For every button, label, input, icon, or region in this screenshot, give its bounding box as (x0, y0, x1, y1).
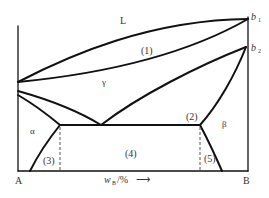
alpha-boundary-curve (18, 95, 60, 125)
label-component-a: A (15, 175, 23, 186)
label-region-5: (5) (204, 153, 216, 165)
gamma-lower-left-curve (18, 91, 101, 125)
label-alpha: α (30, 126, 35, 136)
label-region-2: (2) (186, 111, 198, 123)
x-axis-label-w: w (104, 174, 111, 185)
x-axis-label-unit: /% (117, 174, 128, 185)
label-component-b: B (243, 175, 250, 186)
label-region-3: (3) (43, 155, 55, 167)
label-beta: β (222, 119, 227, 129)
beta-boundary-curve (200, 47, 246, 125)
gamma-beta-upper-curve (101, 47, 246, 125)
label-gamma: γ (101, 77, 106, 87)
liquidus-curve (18, 19, 248, 82)
label-region-1: (1) (141, 45, 153, 57)
label-point-b2: b (251, 42, 256, 53)
label-region-4: (4) (125, 148, 137, 160)
x-axis-arrow-icon: ⟶ (136, 174, 150, 185)
label-point-b2-sub: 2 (258, 48, 261, 54)
label-liquid: L (120, 15, 126, 26)
beta-solvus-curve (200, 125, 222, 171)
x-axis-label-sub: B (112, 180, 116, 186)
solidus-curve (18, 19, 248, 82)
label-point-b1: b (251, 11, 256, 22)
label-point-b1-sub: 1 (258, 17, 261, 23)
phase-diagram: L (1) γ α β (2) (3) (4) (5) b 1 b 2 A B … (0, 0, 269, 198)
